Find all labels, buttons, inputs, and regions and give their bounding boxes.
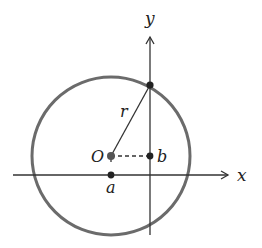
x-axis-label: x xyxy=(237,165,247,185)
a-label: a xyxy=(106,178,116,197)
radius-label: r xyxy=(120,102,129,121)
center-label: O xyxy=(91,147,104,166)
radius-line xyxy=(111,85,150,156)
intersection-point xyxy=(146,81,153,88)
y-axis-label: y xyxy=(144,8,155,28)
circle-diagram: y x r O b a xyxy=(0,0,262,248)
center-point-o xyxy=(107,152,115,160)
point-b xyxy=(147,153,154,160)
b-label: b xyxy=(157,147,167,166)
